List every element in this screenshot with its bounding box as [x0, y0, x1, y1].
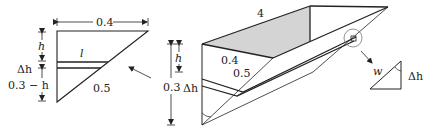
dim-h-label: h [38, 40, 45, 53]
detail-height-label: Δh [408, 70, 423, 83]
diagram-canvas: 0.4 l 0.5 h Δh 0.3 − h [0, 0, 429, 133]
dim-rest-label: 0.3 − h [8, 79, 49, 92]
magnifier-arrow [361, 51, 372, 63]
pointer-arrow [129, 67, 151, 78]
left-height-dimensions: h Δh 0.3 − h [8, 32, 49, 101]
h-label: h [175, 52, 182, 65]
middle-dimensions: 0.3 h Δh [163, 44, 198, 125]
hypotenuse-label: 0.5 [93, 82, 111, 95]
dh-label: Δh [183, 82, 198, 95]
detail-triangle-figure: w Δh [370, 61, 423, 89]
side-a-label: 0.4 [221, 54, 239, 67]
height-label: 0.3 [163, 81, 181, 94]
dim-dh-label: Δh [17, 63, 32, 76]
strip-length-label: l [80, 47, 84, 60]
side-b-label: 0.5 [233, 67, 251, 80]
length-label: 4 [257, 7, 264, 20]
width-label: w [373, 65, 383, 78]
left-triangle-figure: 0.4 l 0.5 h Δh 0.3 − h [8, 16, 151, 102]
trough-figure: 4 0.4 0.5 [202, 6, 388, 125]
top-width-dimension: 0.4 [57, 16, 148, 29]
top-width-label: 0.4 [96, 16, 114, 29]
top-face [202, 6, 310, 58]
